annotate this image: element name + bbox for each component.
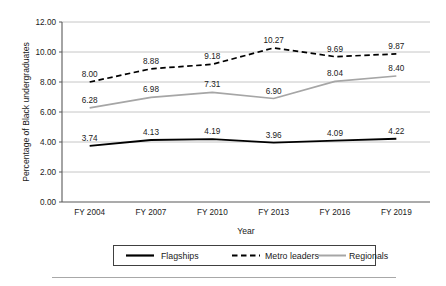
- x-axis-tick-label: FY 2007: [136, 208, 167, 217]
- x-axis-tick-label: FY 2019: [381, 208, 412, 217]
- data-label: 9.87: [388, 42, 404, 51]
- legend: FlagshipsMetro leadersRegionals: [114, 246, 389, 266]
- data-label: 4.19: [204, 127, 220, 136]
- x-axis-tick-label: FY 2010: [197, 208, 228, 217]
- line-chart: 0.002.004.006.008.0010.0012.00 FY 2004FY…: [0, 0, 446, 286]
- legend-label[interactable]: Metro leaders: [265, 251, 319, 261]
- y-axis-tick-label: 4.00: [40, 138, 56, 147]
- data-label: 8.00: [82, 70, 98, 79]
- y-axis-title: Percentage of Black undergraduates: [21, 42, 31, 182]
- data-label: 3.96: [266, 131, 282, 140]
- legend-label[interactable]: Flagships: [161, 251, 199, 261]
- data-label: 4.13: [143, 128, 159, 137]
- x-axis-tick-label: FY 2013: [258, 208, 289, 217]
- x-axis-tick-label: FY 2016: [320, 208, 351, 217]
- gridlines: [62, 22, 430, 172]
- data-label: 10.27: [263, 36, 284, 45]
- x-axis-title: Year: [237, 226, 255, 236]
- data-label: 7.31: [204, 80, 220, 89]
- data-label: 6.90: [266, 87, 282, 96]
- y-axis-tick-label: 2.00: [40, 168, 56, 177]
- chart-figure: 0.002.004.006.008.0010.0012.00 FY 2004FY…: [0, 0, 446, 286]
- data-label: 9.69: [327, 45, 343, 54]
- y-axis-tick-label: 12.00: [36, 18, 57, 27]
- x-axis-tick-label: FY 2004: [74, 208, 105, 217]
- data-label: 6.28: [82, 96, 98, 105]
- data-label: 4.22: [388, 127, 404, 136]
- series-line-regionals: [90, 76, 397, 108]
- y-axis-tick-label: 6.00: [40, 108, 56, 117]
- y-axis-tick-label: 0.00: [40, 198, 56, 207]
- x-axis-tick-labels: FY 2004FY 2007FY 2010FY 2013FY 2016FY 20…: [74, 208, 412, 217]
- y-axis-tick-label: 8.00: [40, 78, 56, 87]
- data-label: 3.74: [82, 134, 98, 143]
- data-label: 6.98: [143, 85, 159, 94]
- series-line-metro-leaders: [90, 48, 397, 82]
- legend-label[interactable]: Regionals: [349, 251, 389, 261]
- data-label: 9.18: [204, 52, 220, 61]
- y-axis-tick-labels: 0.002.004.006.008.0010.0012.00: [36, 18, 57, 207]
- data-label: 4.09: [327, 129, 343, 138]
- series-lines: [90, 48, 397, 146]
- data-label: 8.88: [143, 57, 159, 66]
- y-axis-tick-label: 10.00: [36, 48, 57, 57]
- data-label: 8.40: [388, 64, 404, 73]
- data-label: 8.04: [327, 69, 343, 78]
